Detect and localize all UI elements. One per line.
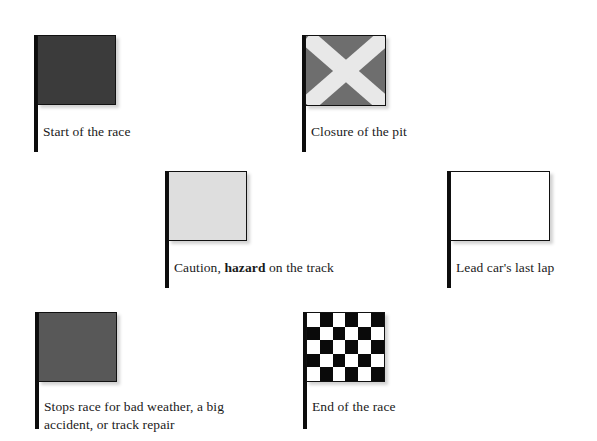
solid-flag-icon bbox=[38, 312, 117, 382]
checker-cell bbox=[358, 340, 371, 354]
checker-cell bbox=[345, 340, 358, 354]
checkered-flag-icon bbox=[306, 312, 385, 382]
checker-cell bbox=[371, 313, 384, 327]
flag-caption: Start of the race bbox=[43, 123, 131, 141]
solid-flag-icon bbox=[450, 171, 550, 241]
caption-post: on the track bbox=[266, 260, 334, 275]
flag-caption: Closure of the pit bbox=[311, 123, 407, 141]
solid-flag-icon bbox=[37, 35, 116, 105]
checker-cell bbox=[345, 313, 358, 327]
checker-cell bbox=[333, 327, 346, 341]
flag-caption: End of the race bbox=[312, 398, 396, 416]
checker-cell bbox=[358, 354, 371, 368]
checkerboard-pattern bbox=[307, 313, 384, 381]
flag-caption: Caution, hazard on the track bbox=[174, 259, 334, 277]
checker-cell bbox=[307, 340, 320, 354]
checker-cell bbox=[307, 354, 320, 368]
checker-cell bbox=[371, 327, 384, 341]
caption-line-1: Stops race for bad weather, a big bbox=[44, 399, 224, 414]
checker-cell bbox=[345, 327, 358, 341]
checker-cell bbox=[320, 340, 333, 354]
checker-cell bbox=[307, 367, 320, 381]
caption-line-2: accident, or track repair bbox=[44, 417, 175, 432]
checker-cell bbox=[358, 327, 371, 341]
caption-pre: Caution, bbox=[174, 260, 224, 275]
saltire-cross-shape bbox=[306, 36, 385, 105]
saltire-flag-icon bbox=[305, 35, 386, 106]
checker-cell bbox=[371, 340, 384, 354]
checker-cell bbox=[333, 354, 346, 368]
checker-cell bbox=[371, 354, 384, 368]
checker-cell bbox=[307, 313, 320, 327]
solid-flag-icon bbox=[168, 171, 247, 241]
flag-caption: Stops race for bad weather, a bigacciden… bbox=[44, 398, 274, 434]
checker-cell bbox=[345, 367, 358, 381]
checker-cell bbox=[320, 354, 333, 368]
caption-bold: hazard bbox=[224, 260, 265, 275]
checker-cell bbox=[371, 367, 384, 381]
checker-cell bbox=[358, 313, 371, 327]
checker-cell bbox=[358, 367, 371, 381]
checker-cell bbox=[307, 327, 320, 341]
checker-cell bbox=[333, 313, 346, 327]
checker-cell bbox=[333, 367, 346, 381]
checker-cell bbox=[320, 367, 333, 381]
checker-cell bbox=[320, 327, 333, 341]
flag-caption: Lead car's last lap bbox=[456, 259, 554, 277]
checker-cell bbox=[345, 354, 358, 368]
checker-cell bbox=[333, 340, 346, 354]
checker-cell bbox=[320, 313, 333, 327]
